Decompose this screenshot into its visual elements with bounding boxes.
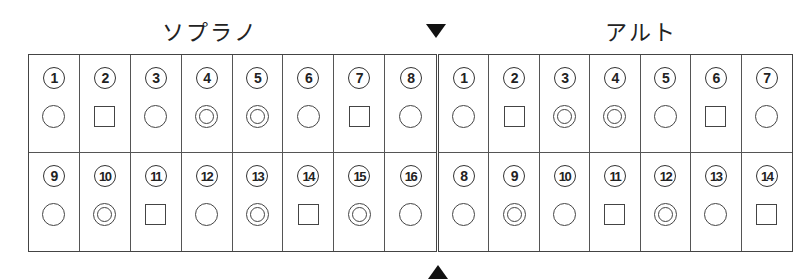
double-circle-icon bbox=[246, 203, 269, 226]
circle-icon bbox=[399, 105, 422, 128]
double-circle-icon bbox=[246, 105, 269, 128]
double-circle-icon bbox=[195, 105, 218, 128]
circled-number: 8 bbox=[453, 165, 475, 187]
soprano-cell: 1 bbox=[29, 55, 80, 153]
circled-number: 11 bbox=[145, 165, 167, 187]
square-icon bbox=[756, 204, 777, 225]
circled-number: 15 bbox=[348, 165, 370, 187]
soprano-heading: ソプラノ bbox=[162, 14, 258, 46]
soprano-cell: 13 bbox=[233, 153, 284, 251]
alto-cell: 14 bbox=[742, 153, 792, 251]
square-icon bbox=[298, 204, 319, 225]
circled-number: 14 bbox=[297, 165, 319, 187]
circled-number: 2 bbox=[503, 67, 525, 89]
down-triangle-icon bbox=[426, 24, 446, 38]
up-triangle-icon bbox=[428, 265, 448, 279]
double-circle-icon bbox=[603, 105, 626, 128]
circled-number: 10 bbox=[554, 165, 576, 187]
double-circle-icon bbox=[93, 203, 116, 226]
alto-cell: 6 bbox=[691, 55, 741, 153]
alto-cell: 11 bbox=[590, 153, 640, 251]
circle-icon bbox=[195, 203, 218, 226]
alto-cell: 12 bbox=[641, 153, 691, 251]
circled-number: 5 bbox=[246, 67, 268, 89]
circled-number: 4 bbox=[196, 67, 218, 89]
alto-table: 1234567891011121314 bbox=[438, 54, 793, 252]
soprano-cell: 16 bbox=[385, 153, 436, 251]
circle-icon bbox=[553, 203, 576, 226]
square-icon bbox=[504, 106, 525, 127]
alto-heading: アルト bbox=[605, 14, 677, 46]
circled-number: 7 bbox=[348, 67, 370, 89]
circled-number: 3 bbox=[145, 67, 167, 89]
alto-cell: 7 bbox=[742, 55, 792, 153]
circled-number: 2 bbox=[94, 67, 116, 89]
alto-cell: 13 bbox=[691, 153, 741, 251]
soprano-cell: 12 bbox=[182, 153, 233, 251]
alto-cell: 4 bbox=[590, 55, 640, 153]
alto-cell: 3 bbox=[540, 55, 590, 153]
double-circle-icon bbox=[553, 105, 576, 128]
circled-number: 12 bbox=[196, 165, 218, 187]
alto-cell: 2 bbox=[489, 55, 539, 153]
circled-number: 6 bbox=[297, 67, 319, 89]
circled-number: 5 bbox=[654, 67, 676, 89]
soprano-cell: 5 bbox=[233, 55, 284, 153]
alto-cell: 9 bbox=[489, 153, 539, 251]
circle-icon bbox=[755, 105, 778, 128]
alto-cell: 10 bbox=[540, 153, 590, 251]
circle-icon bbox=[42, 203, 65, 226]
circled-number: 16 bbox=[400, 165, 422, 187]
soprano-cell: 3 bbox=[131, 55, 182, 153]
soprano-table: 12345678910111213141516 bbox=[28, 54, 437, 252]
circled-number: 13 bbox=[705, 165, 727, 187]
circle-icon bbox=[42, 105, 65, 128]
double-circle-icon bbox=[348, 203, 371, 226]
soprano-cell: 7 bbox=[334, 55, 385, 153]
circled-number: 9 bbox=[503, 165, 525, 187]
circled-number: 9 bbox=[43, 165, 65, 187]
square-icon bbox=[145, 204, 166, 225]
soprano-cell: 8 bbox=[385, 55, 436, 153]
circled-number: 3 bbox=[554, 67, 576, 89]
square-icon bbox=[94, 106, 115, 127]
circle-icon bbox=[654, 105, 677, 128]
square-icon bbox=[604, 204, 625, 225]
circled-number: 8 bbox=[400, 67, 422, 89]
circled-number: 13 bbox=[246, 165, 268, 187]
circled-number: 11 bbox=[604, 165, 626, 187]
alto-cell: 1 bbox=[439, 55, 489, 153]
soprano-cell: 11 bbox=[131, 153, 182, 251]
circled-number: 12 bbox=[654, 165, 676, 187]
circled-number: 10 bbox=[94, 165, 116, 187]
square-icon bbox=[349, 106, 370, 127]
circled-number: 7 bbox=[756, 67, 778, 89]
circle-icon bbox=[144, 105, 167, 128]
circle-icon bbox=[399, 203, 422, 226]
soprano-cell: 9 bbox=[29, 153, 80, 251]
square-icon bbox=[705, 106, 726, 127]
alto-cell: 5 bbox=[641, 55, 691, 153]
soprano-cell: 2 bbox=[80, 55, 131, 153]
alto-cell: 8 bbox=[439, 153, 489, 251]
circle-icon bbox=[297, 105, 320, 128]
circle-icon bbox=[452, 203, 475, 226]
soprano-cell: 14 bbox=[283, 153, 334, 251]
soprano-cell: 15 bbox=[334, 153, 385, 251]
soprano-cell: 10 bbox=[80, 153, 131, 251]
circled-number: 1 bbox=[43, 67, 65, 89]
soprano-cell: 6 bbox=[283, 55, 334, 153]
double-circle-icon bbox=[654, 203, 677, 226]
circled-number: 4 bbox=[604, 67, 626, 89]
circled-number: 14 bbox=[756, 165, 778, 187]
double-circle-icon bbox=[503, 203, 526, 226]
soprano-cell: 4 bbox=[182, 55, 233, 153]
circle-icon bbox=[704, 203, 727, 226]
circled-number: 6 bbox=[705, 67, 727, 89]
circle-icon bbox=[452, 105, 475, 128]
circled-number: 1 bbox=[453, 67, 475, 89]
